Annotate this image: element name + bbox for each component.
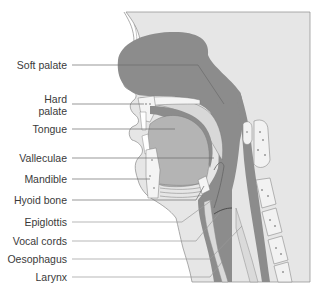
vertebra-c2 (254, 120, 270, 167)
label-hyoid-bone: Hyoid bone (14, 194, 67, 206)
label-hard-palate-line1: Hard (44, 93, 67, 105)
label-oesophagus: Oesophagus (7, 253, 67, 265)
sagittal-section-illustration: Soft palate Hard palate Tongue Vallecula… (0, 0, 325, 297)
labels: Soft palate Hard palate Tongue Vallecula… (7, 59, 67, 283)
label-hard-palate-line2: palate (38, 105, 67, 117)
anatomy-diagram: Soft palate Hard palate Tongue Vallecula… (0, 0, 325, 297)
label-mandible: Mandible (24, 173, 67, 185)
label-epiglottis: Epiglottis (24, 216, 67, 228)
label-valleculae: Valleculae (19, 152, 67, 164)
label-larynx: Larynx (35, 271, 67, 283)
label-soft-palate: Soft palate (17, 59, 67, 71)
vertebra-c1 (243, 122, 252, 145)
label-tongue: Tongue (33, 123, 68, 135)
label-vocal-cords: Vocal cords (13, 235, 67, 247)
